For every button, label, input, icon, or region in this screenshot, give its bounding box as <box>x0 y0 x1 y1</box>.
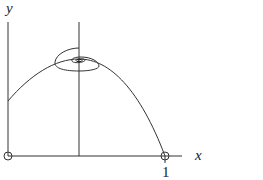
y-axis-label: y <box>6 1 13 16</box>
equilibrium-x1-icon <box>161 152 169 160</box>
phase-diagram <box>0 0 263 180</box>
x-tick-label-1: 1 <box>162 165 170 180</box>
x-axis-label: x <box>195 148 202 163</box>
parabolic-nullcline <box>8 59 165 156</box>
equilibrium-origin-icon <box>4 152 12 160</box>
